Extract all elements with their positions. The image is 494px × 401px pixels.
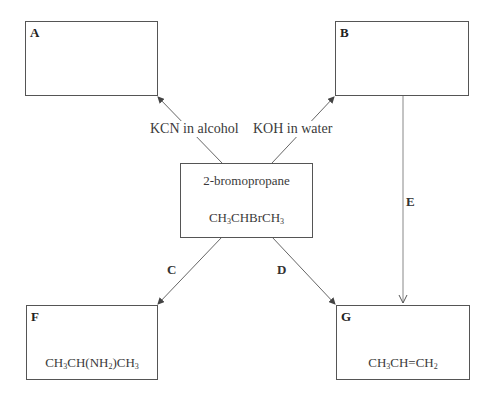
box-f: F CH3CH(NH2)CH3 <box>26 305 158 380</box>
box-g-label: G <box>341 309 351 325</box>
box-2-bromopropane: 2-bromopropane CH3CHBrCH3 <box>180 163 313 238</box>
g-formula: CH3CH=CH2 <box>337 355 469 371</box>
box-g: G CH3CH=CH2 <box>336 305 470 380</box>
reagent-kcn: KCN in alcohol <box>149 121 240 137</box>
start-formula: CH3CHBrCH3 <box>181 210 312 226</box>
box-b-label: B <box>340 25 349 41</box>
step-c: C <box>167 262 176 278</box>
start-name: 2-bromopropane <box>181 173 312 189</box>
reagent-koh: KOH in water <box>252 121 333 137</box>
box-b: B <box>335 21 469 96</box>
box-a: A <box>25 21 158 96</box>
step-e: E <box>406 194 415 210</box>
box-a-label: A <box>30 25 39 41</box>
step-d: D <box>277 262 286 278</box>
f-formula: CH3CH(NH2)CH3 <box>27 355 157 371</box>
box-f-label: F <box>31 309 39 325</box>
